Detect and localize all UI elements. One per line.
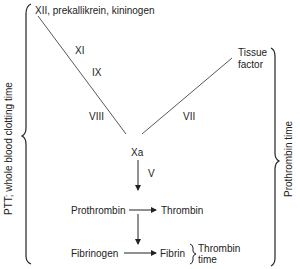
node-xii-prekallikrein-kininogen: XII, prekallikrein, kininogen <box>35 5 155 16</box>
node-thrombin: Thrombin <box>161 205 203 216</box>
thrombin-time-bracket <box>190 244 196 264</box>
node-vii: VII <box>183 111 195 122</box>
left-bracket <box>22 4 31 264</box>
node-prothrombin: Prothrombin <box>71 205 125 216</box>
node-xi: XI <box>75 45 84 56</box>
right-bracket <box>271 48 279 266</box>
thrombin-time-label-line2: time <box>198 254 217 265</box>
node-viii: VIII <box>89 111 104 122</box>
node-tissue-factor-line2: factor <box>238 59 263 70</box>
thrombin-time-label-line1: Thrombin <box>198 243 240 254</box>
extrinsic-pathway-line <box>142 58 232 134</box>
node-xa: Xa <box>131 147 143 158</box>
node-fibrinogen: Fibrinogen <box>71 248 118 259</box>
node-fibrin: Fibrin <box>160 248 185 259</box>
intrinsic-pathway-line <box>38 16 126 134</box>
node-v: V <box>148 168 155 179</box>
node-ix: IX <box>92 67 101 78</box>
ptt-bracket-label: PTT; whole blood clotting time <box>3 82 14 215</box>
node-tissue-factor-line1: Tissue <box>238 47 267 58</box>
prothrombin-time-bracket-label: Prothrombin time <box>283 121 294 197</box>
diagram-lines <box>0 0 300 269</box>
